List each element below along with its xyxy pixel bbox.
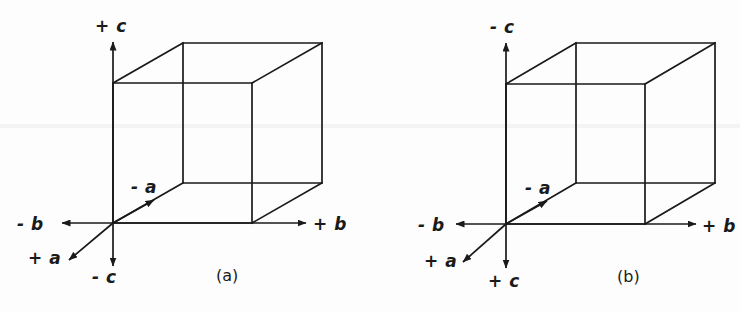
axis-label-a-negative-b: - a: [525, 180, 551, 197]
panel-a-axes: [62, 42, 306, 266]
axis-label-b-negative-b: - b: [418, 217, 445, 234]
axis-label-c-positive-a: + c: [95, 18, 127, 35]
axis-a-negative-a: [113, 200, 154, 223]
axis-label-b-positive-b: + b: [702, 218, 736, 235]
cube-edge-top-left-b: [506, 43, 576, 84]
panel-caption-a: (a): [216, 268, 238, 284]
axis-a-negative-b: [506, 201, 547, 224]
axis-label-a-positive-b: + a: [424, 253, 457, 270]
panel-caption-b: (b): [617, 269, 640, 285]
cube-edge-top-right-a: [252, 43, 322, 83]
axis-label-c-negative-a: - c: [92, 269, 117, 286]
cube-edge-top-left-a: [113, 43, 183, 83]
axis-label-c-positive-b: + c: [488, 273, 520, 290]
cube-edge-bottom-right-a: [252, 183, 322, 223]
cube-edge-top-right-b: [645, 43, 715, 84]
axis-label-c-negative-b: - c: [490, 19, 515, 36]
axis-a-positive-a: [69, 223, 113, 260]
axis-label-a-negative-a: - a: [131, 179, 157, 196]
axis-label-b-positive-a: + b: [313, 216, 347, 233]
axis-label-b-negative-a: - b: [17, 216, 44, 233]
axis-a-positive-b: [463, 224, 506, 262]
figure-root: + c - c - b + b - a + a (a) - c + c - b …: [0, 0, 740, 312]
figure-vector-layer: [0, 0, 740, 312]
axis-label-a-positive-a: + a: [28, 250, 61, 267]
